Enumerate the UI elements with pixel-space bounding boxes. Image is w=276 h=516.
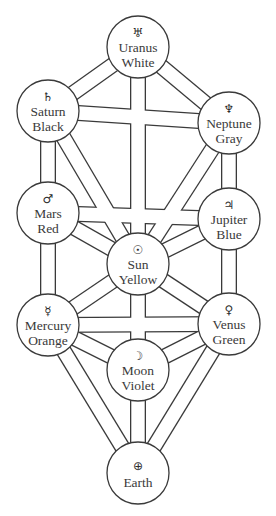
node-jupiter: ♃JupiterBlue xyxy=(198,188,260,250)
planet-name: Moon xyxy=(122,363,155,378)
node-circle xyxy=(107,442,169,504)
mercury-icon: ☿ xyxy=(44,304,51,318)
node-neptune: ♆NeptuneGray xyxy=(198,92,260,154)
node-venus: ♀VenusGreen xyxy=(198,293,260,355)
node-earth: ⊕Earth xyxy=(107,442,169,504)
color-label: Orange xyxy=(28,333,68,348)
planet-name: Saturn xyxy=(30,104,65,119)
color-label: Gray xyxy=(216,131,243,146)
planet-name: Mars xyxy=(34,206,62,221)
planet-name: Mercury xyxy=(25,318,72,333)
mars-icon: ♂ xyxy=(43,192,54,206)
color-label: Violet xyxy=(122,378,155,393)
tree-of-life-diagram: ♅UranusWhite♄SaturnBlack♆NeptuneGray♂Mar… xyxy=(0,0,276,516)
planet-name: Earth xyxy=(123,475,152,490)
node-sun: ☉SunYellow xyxy=(107,233,169,295)
color-label: Yellow xyxy=(119,272,158,287)
color-label: Blue xyxy=(216,227,242,242)
node-mercury: ☿MercuryOrange xyxy=(17,294,79,356)
earth-icon: ⊕ xyxy=(133,459,143,473)
color-label: White xyxy=(122,55,155,70)
neptune-icon: ♆ xyxy=(224,102,235,116)
node-moon: ☽MoonViolet xyxy=(107,339,169,401)
node-uranus: ♅UranusWhite xyxy=(107,16,169,78)
planet-name: Uranus xyxy=(119,40,158,55)
node-saturn: ♄SaturnBlack xyxy=(17,80,79,142)
color-label: Green xyxy=(213,332,246,347)
planet-name: Neptune xyxy=(206,116,252,131)
sun-icon: ☉ xyxy=(133,243,144,257)
saturn-icon: ♄ xyxy=(43,90,54,104)
planet-name: Jupiter xyxy=(211,212,248,227)
jupiter-icon: ♃ xyxy=(224,198,235,212)
color-label: Red xyxy=(37,221,59,236)
planet-name: Sun xyxy=(127,257,148,272)
uranus-icon: ♅ xyxy=(133,26,144,40)
planet-name: Venus xyxy=(213,317,246,332)
color-label: Black xyxy=(32,119,64,134)
venus-icon: ♀ xyxy=(225,303,234,317)
node-mars: ♂MarsRed xyxy=(17,182,79,244)
moon-icon: ☽ xyxy=(133,349,144,363)
